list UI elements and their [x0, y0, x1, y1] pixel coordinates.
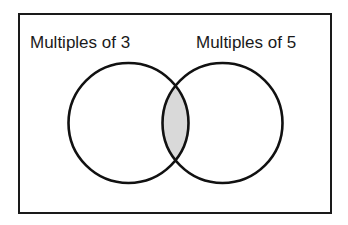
venn-diagram [0, 0, 348, 225]
